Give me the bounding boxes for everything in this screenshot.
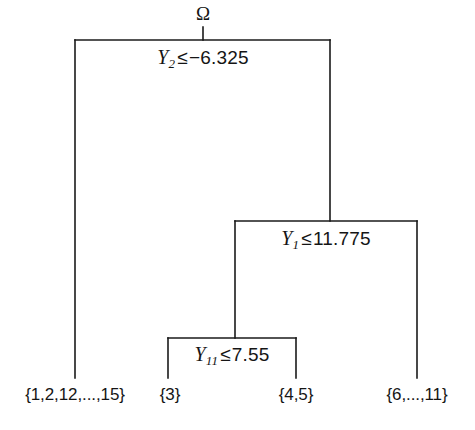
split-3-variable: Y: [194, 343, 205, 365]
root-split-value: −6.325: [189, 47, 249, 68]
root-omega-symbol: Ω: [196, 3, 210, 25]
split-2-value: 11.775: [313, 228, 371, 249]
leaf-node-2: {3}: [160, 385, 181, 405]
split-3-label: Y11≤7.55: [194, 343, 269, 369]
split-3-value: 7.55: [232, 344, 270, 365]
root-split-relation: ≤: [177, 47, 188, 68]
split-3-subscript: 11: [206, 353, 218, 368]
leaf-node-4: {6,...,11}: [386, 385, 447, 405]
split-3-relation: ≤: [220, 344, 231, 365]
leaf-node-3: {4,5}: [279, 385, 314, 405]
root-split-subscript: 2: [169, 56, 176, 71]
split-2-subscript: 1: [293, 237, 300, 252]
split-2-relation: ≤: [301, 228, 312, 249]
root-split-label: Y2≤−6.325: [157, 46, 249, 72]
root-split-variable: Y: [157, 46, 168, 68]
leaf-node-1: {1,2,12,...,15}: [25, 385, 125, 405]
split-2-variable: Y: [281, 227, 292, 249]
split-2-label: Y1≤11.775: [281, 227, 371, 253]
